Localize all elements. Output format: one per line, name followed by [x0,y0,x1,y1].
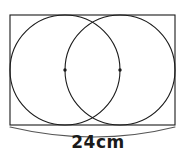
right-circle-center-dot [118,68,121,71]
geometry-figure: 24cm [0,0,196,160]
width-dimension-label: 24cm [0,132,196,152]
left-circle-center-dot [63,68,66,71]
bounding-rectangle [10,15,175,125]
